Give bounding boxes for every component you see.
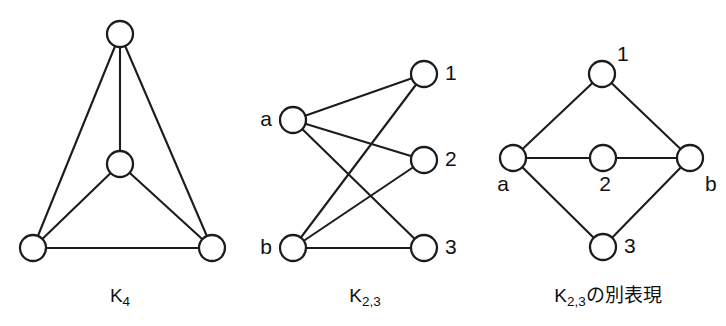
graph-figure: K4ab123K2,31a2b3K2,3の別表現 [0,0,726,326]
panel-caption: K4 [110,285,131,309]
caption-main: K [110,285,123,306]
graph-edge [513,158,603,247]
graph-edge [293,74,424,120]
graph-node [199,235,225,261]
graph-node [20,235,46,261]
panel-caption: K2,3 [349,285,380,309]
caption-suffix: の別表現 [586,285,662,306]
graph-edge [293,160,424,248]
graph-edge [33,164,120,248]
caption-main: K [554,285,567,306]
caption-subscript: 2,3 [362,294,381,309]
node-group [20,21,225,261]
node-label: b [260,235,272,258]
node-label: 1 [617,42,629,65]
graph-edge [293,74,424,248]
node-label: 1 [445,61,457,84]
node-group: 1a2b3 [497,42,717,260]
graph-edge [120,164,212,248]
node-label: b [705,172,717,195]
graph-node [411,147,437,173]
caption-subscript: 4 [123,294,131,309]
edge-group [33,34,212,248]
node-label: a [260,107,272,130]
graph-node [107,21,133,47]
caption-main: K [349,285,362,306]
graph-edge [513,74,602,158]
caption-subscript: 2,3 [567,294,586,309]
graph-canvas: K4ab123K2,31a2b3K2,3の別表現 [0,0,726,326]
graph-node [411,61,437,87]
graph-edge [33,34,120,248]
graph-edge [603,158,690,247]
graph-panel-k23-alt: 1a2b3K2,3の別表現 [497,42,717,309]
graph-edge [120,34,212,248]
node-label: 3 [445,235,457,258]
panels-group: K4ab123K2,31a2b3K2,3の別表現 [20,21,717,309]
panel-caption: K2,3の別表現 [554,285,661,309]
graph-node [107,151,133,177]
node-label: 3 [624,234,636,257]
graph-panel-k4: K4 [20,21,225,309]
graph-node [500,145,526,171]
node-label: 2 [599,172,611,195]
node-label: a [497,172,509,195]
graph-edge [602,74,690,158]
edge-group [293,74,424,248]
graph-node [589,61,615,87]
graph-node [590,234,616,260]
graph-node [280,235,306,261]
graph-node [677,145,703,171]
graph-node [280,107,306,133]
graph-node [590,145,616,171]
node-label: 2 [445,147,457,170]
graph-node [411,235,437,261]
graph-panel-k23: ab123K2,3 [260,61,456,309]
